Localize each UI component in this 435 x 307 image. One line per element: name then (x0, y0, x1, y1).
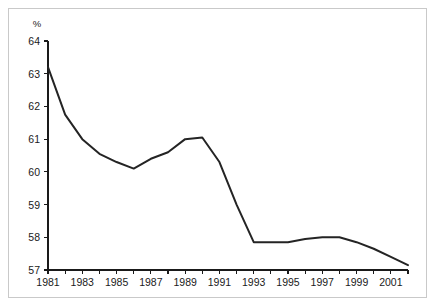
y-tick-label: 61 (28, 133, 40, 145)
x-tick-label: 2001 (379, 276, 403, 288)
x-tick-label: 1983 (71, 276, 95, 288)
figure-root: 5758596061626364 19811983198519871989199… (0, 0, 435, 307)
x-tick-label: 1993 (242, 276, 266, 288)
x-tick-label: 1995 (276, 276, 300, 288)
y-tick-label: 57 (28, 264, 40, 276)
x-tick-label: 1985 (105, 276, 129, 288)
x-tick-label: 1989 (173, 276, 197, 288)
x-tick-label: 1999 (345, 276, 369, 288)
x-axis-group: 1981198319851987198919911993199519971999… (36, 270, 408, 288)
y-tick-label: 60 (28, 166, 40, 178)
data-series-line (48, 67, 408, 265)
x-tick-label: 1997 (311, 276, 335, 288)
line-chart: 5758596061626364 19811983198519871989199… (0, 0, 435, 307)
x-tick-label: 1991 (208, 276, 232, 288)
x-tick-label: 1981 (36, 276, 60, 288)
y-axis-unit-label: % (33, 18, 42, 29)
x-tick-label: 1987 (139, 276, 163, 288)
y-axis-group: 5758596061626364 (28, 35, 48, 276)
y-tick-label: 64 (28, 35, 40, 47)
y-axis-tick-labels: 5758596061626364 (28, 35, 40, 276)
x-axis-tick-labels: 1981198319851987198919911993199519971999… (36, 276, 402, 288)
y-tick-label: 59 (28, 199, 40, 211)
y-tick-label: 58 (28, 231, 40, 243)
y-tick-label: 63 (28, 68, 40, 80)
y-tick-label: 62 (28, 100, 40, 112)
